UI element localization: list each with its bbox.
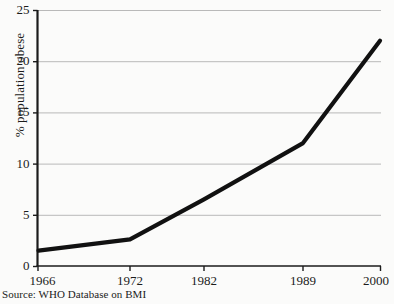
x-tick-label-2000: 2000 [346, 274, 394, 288]
axes-group [37, 10, 382, 266]
tick-marks-group [33, 11, 381, 272]
data-series-line [39, 41, 381, 251]
data-line-group [39, 41, 381, 251]
y-tick-label-25: 25 [0, 3, 30, 16]
y-tick-label-20: 20 [0, 54, 30, 67]
x-tick-label-1989: 1989 [273, 274, 333, 288]
gridlines-group [38, 11, 382, 216]
y-tick-label-0: 0 [0, 259, 30, 272]
source-note: Source: WHO Database on BMI [2, 288, 146, 300]
y-tick-label-5: 5 [0, 208, 30, 221]
x-tick-label-1972: 1972 [100, 274, 160, 288]
y-axis-label: % population obese [12, 5, 28, 165]
x-tick-label-1966: 1966 [13, 274, 73, 288]
x-tick-label-1982: 1982 [174, 274, 234, 288]
y-tick-label-15: 15 [0, 105, 30, 118]
y-tick-label-10: 10 [0, 157, 30, 170]
